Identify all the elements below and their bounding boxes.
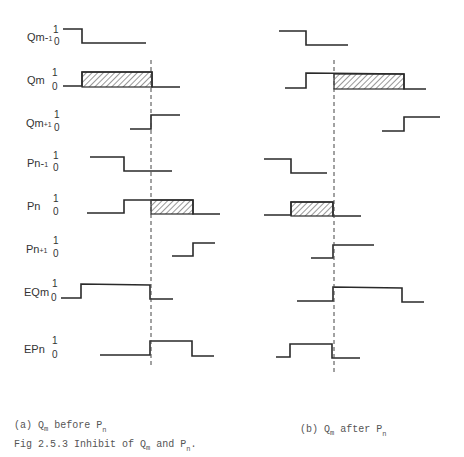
figure-caption: Fig 2.5.3 Inhibit of Qm and Pn.	[14, 439, 196, 453]
signal-labels: Qm-1 1 0 Qm 1 0 Qm+1 1 0 Pn-1 1 0 Pn 1 0…	[24, 24, 60, 360]
panel-b-waveform-eqm	[297, 287, 424, 302]
signal-label-pn-minus-1: Pn-1	[27, 157, 48, 169]
panel-b-waveform-pn-1	[264, 159, 327, 173]
level-low: 0	[53, 248, 59, 259]
signal-label-qm-plus-1: Qm+1	[26, 117, 52, 129]
panel-b-waveforms	[264, 31, 440, 375]
level-low: 0	[52, 81, 58, 92]
level-high: 1	[53, 24, 59, 35]
panel-a-waveform-pn-1	[90, 157, 172, 171]
level-low: 0	[53, 162, 59, 173]
panel-b-caption: (b) Qm after Pn	[300, 424, 386, 438]
level-high: 1	[53, 193, 59, 204]
panel-b-waveform-epn	[276, 344, 360, 358]
level-low: 0	[52, 349, 58, 360]
signal-label-epn: EPn	[24, 343, 45, 355]
panel-a-waveform-epn	[100, 341, 214, 356]
timing-diagram: Qm-1 1 0 Qm 1 0 Qm+1 1 0 Pn-1 1 0 Pn 1 0…	[0, 0, 464, 457]
panel-b-hatched-region-pn	[291, 202, 333, 216]
panel-a-waveforms	[61, 29, 220, 366]
panel-b-waveform-qm-plus-1	[382, 117, 440, 131]
panel-a-caption: (a) Qm before Pn	[14, 420, 106, 434]
panel-b-waveform-pn-plus-1	[311, 245, 374, 258]
level-high: 1	[53, 150, 59, 161]
level-low: 0	[54, 122, 60, 133]
panel-b-waveform-qm-1	[279, 31, 348, 45]
panel-a-hatched-region-pn	[151, 200, 193, 214]
panel-a-hatched-region-qm	[82, 72, 152, 87]
level-high: 1	[52, 278, 58, 289]
level-low: 0	[53, 206, 59, 217]
panel-a-waveform-eqm	[61, 284, 173, 299]
panel-b-hatched-region-qm	[334, 74, 404, 89]
level-high: 1	[52, 335, 58, 346]
panel-a-waveform-qm-1	[63, 29, 146, 43]
panel-a-waveform-qm-plus-1	[130, 115, 180, 129]
signal-label-pn: Pn	[27, 200, 40, 212]
level-low: 0	[54, 36, 60, 47]
signal-label-pn-plus-1: Pn+1	[26, 243, 48, 255]
level-high: 1	[54, 109, 60, 120]
panel-a-waveform-pn-plus-1	[172, 243, 215, 256]
level-high: 1	[52, 67, 58, 78]
signal-label-qm: Qm	[27, 74, 45, 86]
level-high: 1	[53, 235, 59, 246]
signal-label-eqm: EQm	[24, 286, 49, 298]
signal-label-qm-minus-1: Qm-1	[27, 31, 52, 43]
level-low: 0	[51, 292, 57, 303]
